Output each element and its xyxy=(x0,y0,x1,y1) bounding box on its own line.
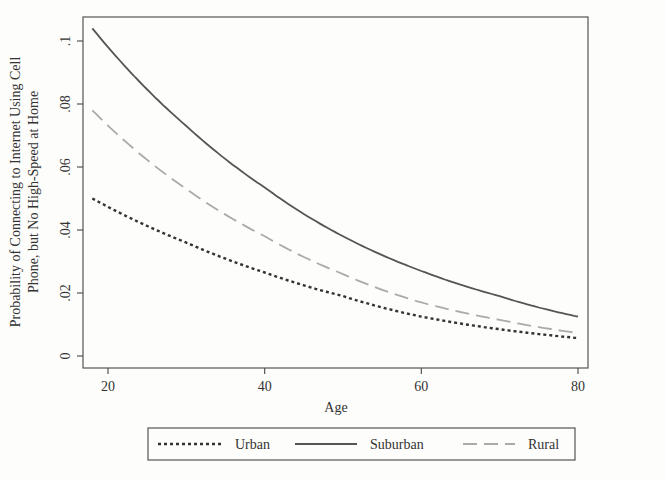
y-tick-label: .1 xyxy=(58,36,73,47)
series-line-rural xyxy=(92,110,578,333)
x-axis-title: Age xyxy=(324,400,347,415)
y-tick-label: .02 xyxy=(58,284,73,302)
line-chart: 0.02.04.06.08.1 20406080 Age Probability… xyxy=(0,0,666,479)
y-tick-label: .04 xyxy=(58,221,73,239)
legend-label: Rural xyxy=(528,437,559,452)
plot-frame xyxy=(83,17,588,368)
y-axis: 0.02.04.06.08.1 xyxy=(58,36,83,360)
y-tick-label: 0 xyxy=(58,353,73,360)
y-tick-label: .06 xyxy=(58,158,73,176)
x-tick-label: 80 xyxy=(571,379,585,394)
x-axis: 20406080 xyxy=(101,368,585,394)
legend-label: Urban xyxy=(235,437,270,452)
legend-label: Suburban xyxy=(370,437,424,452)
legend: UrbanSuburbanRural xyxy=(148,428,575,460)
series-line-suburban xyxy=(92,28,578,316)
y-tick-label: .08 xyxy=(58,95,73,113)
y-axis-title-line: Phone, but No High-Speed at Home xyxy=(26,91,41,293)
x-tick-label: 20 xyxy=(101,379,115,394)
x-tick-label: 40 xyxy=(258,379,272,394)
y-axis-title-line: Probability of Connecting to Internet Us… xyxy=(8,57,23,328)
x-tick-label: 60 xyxy=(414,379,428,394)
series-line-urban xyxy=(92,199,578,339)
y-axis-title: Probability of Connecting to Internet Us… xyxy=(8,57,41,328)
series-lines xyxy=(92,28,578,338)
